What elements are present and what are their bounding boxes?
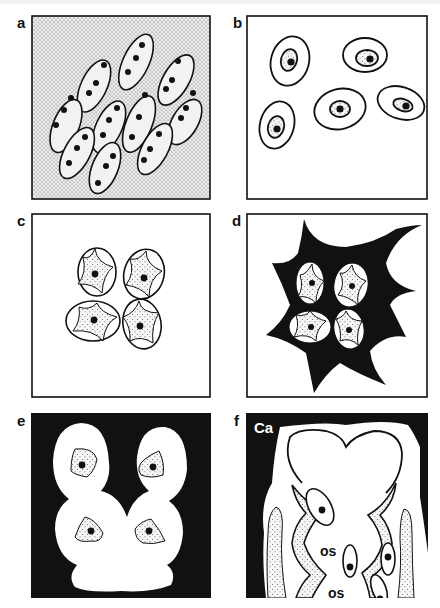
page-top-edge xyxy=(0,0,440,4)
panel-b xyxy=(246,15,428,200)
panel-c xyxy=(31,213,211,398)
panel-label-d: d xyxy=(232,212,241,229)
panel-e xyxy=(31,413,211,598)
panel-label-f: f xyxy=(234,412,239,429)
panel-label-b: b xyxy=(233,14,242,31)
panel-a xyxy=(31,15,211,200)
label-osteocyte-os-1: os xyxy=(320,543,336,559)
panel-label-a: a xyxy=(17,14,25,31)
panel-label-e: e xyxy=(17,412,25,429)
label-calcified-ca: Ca xyxy=(254,419,273,436)
panel-label-c: c xyxy=(17,212,25,229)
panel-d xyxy=(246,213,428,398)
panel-f: Ca os os xyxy=(246,413,428,598)
label-osteocyte-os-2: os xyxy=(328,585,344,601)
